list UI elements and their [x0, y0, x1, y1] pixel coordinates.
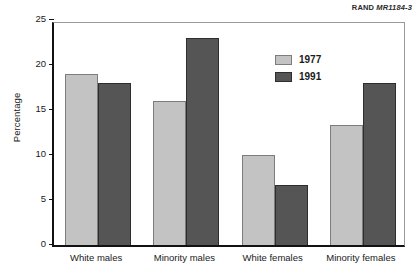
legend-swatch-1991: [275, 72, 292, 82]
y-axis-title: Percentage: [11, 58, 22, 178]
legend-swatch-1977: [275, 55, 292, 65]
y-tick-mark: [49, 19, 54, 20]
bar-group: [54, 74, 142, 245]
bar-1977-white-females: [242, 155, 275, 245]
y-tick-label: 15: [35, 103, 46, 114]
x-axis-label: White males: [52, 252, 140, 263]
legend-label-1991: 1991: [299, 71, 321, 82]
x-axis-label: Minority females: [317, 252, 405, 263]
y-tick-label: 0: [41, 238, 46, 249]
source-org: RAND: [352, 3, 374, 12]
bar-1977-minority-males: [153, 101, 186, 245]
bar-1991-white-males: [98, 83, 131, 245]
x-axis-label: Minority males: [140, 252, 228, 263]
y-tick-label: 5: [41, 193, 46, 204]
legend-entry: 1977: [275, 54, 321, 65]
bar-1977-minority-females: [330, 125, 363, 245]
plot-area: 0510152025 19771991: [52, 22, 405, 247]
bar-group: [142, 38, 230, 245]
y-tick-label: 25: [35, 13, 46, 24]
y-tick-label: 20: [35, 58, 46, 69]
x-axis-label: White females: [229, 252, 317, 263]
bar-1977-white-males: [65, 74, 98, 245]
legend: 19771991: [275, 54, 321, 88]
legend-entry: 1991: [275, 71, 321, 82]
bar-chart-figure: RAND MR1184-3 Percentage 0510152025 1977…: [0, 0, 418, 276]
bar-group: [319, 83, 407, 245]
bar-1991-white-females: [275, 185, 308, 245]
legend-label-1977: 1977: [299, 54, 321, 65]
bar-group: [231, 155, 319, 245]
source-id: MR1184-3: [376, 3, 412, 12]
bar-1991-minority-males: [186, 38, 219, 245]
y-tick-mark: [49, 64, 54, 65]
bar-1991-minority-females: [363, 83, 396, 245]
source-credit: RAND MR1184-3: [352, 3, 412, 12]
y-tick-label: 10: [35, 148, 46, 159]
